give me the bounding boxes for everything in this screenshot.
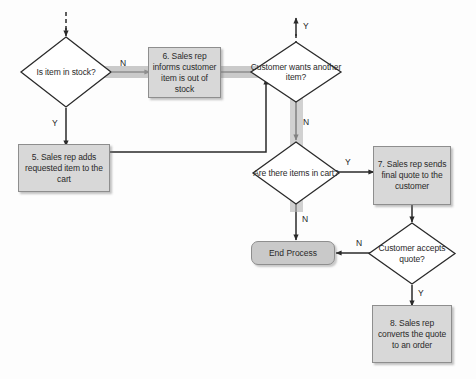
process-box-5-label: 5. Sales rep adds requested item to the …	[22, 152, 106, 185]
edge-label-d3-yes: Y	[345, 157, 351, 167]
process-box-7[interactable]: 7. Sales rep sends final quote to the cu…	[373, 146, 451, 205]
process-box-6-label: 6. Sales rep informs customer item is ou…	[152, 51, 217, 95]
decision-label: Customer accepts quote?	[368, 222, 456, 285]
decision-label: Are there items in cart?	[252, 141, 340, 205]
flowchart-canvas: Is item in stock? 6. Sales rep informs c…	[0, 0, 476, 379]
decision-label: Is item in stock?	[20, 36, 112, 108]
terminator-end-process[interactable]: End Process	[251, 241, 335, 265]
decision-label: Customer wants another item?	[250, 41, 342, 103]
decision-customer-wants-another-item[interactable]: Customer wants another item?	[250, 41, 342, 103]
edge-label-d2-no: N	[303, 117, 309, 127]
process-box-6[interactable]: 6. Sales rep informs customer item is ou…	[148, 47, 221, 98]
process-box-8-label: 8. Sales rep converts the quote to an or…	[376, 318, 448, 351]
edge-label-d4-yes: Y	[418, 288, 424, 298]
decision-is-item-in-stock[interactable]: Is item in stock?	[20, 36, 112, 108]
process-box-8[interactable]: 8. Sales rep converts the quote to an or…	[372, 305, 452, 363]
decision-customer-accepts-quote[interactable]: Customer accepts quote?	[368, 222, 456, 285]
decision-are-there-items-in-cart[interactable]: Are there items in cart?	[252, 141, 340, 205]
edge-label-d4-no: N	[356, 238, 362, 248]
edge-label-d1-yes: Y	[52, 118, 58, 128]
edge-label-d1-no: N	[120, 58, 126, 68]
process-box-7-label: 7. Sales rep sends final quote to the cu…	[377, 159, 447, 192]
edge-label-d2-yes: Y	[303, 21, 309, 31]
process-box-5[interactable]: 5. Sales rep adds requested item to the …	[18, 144, 110, 192]
terminator-label: End Process	[269, 248, 317, 259]
edge-label-d3-no: N	[302, 214, 308, 224]
